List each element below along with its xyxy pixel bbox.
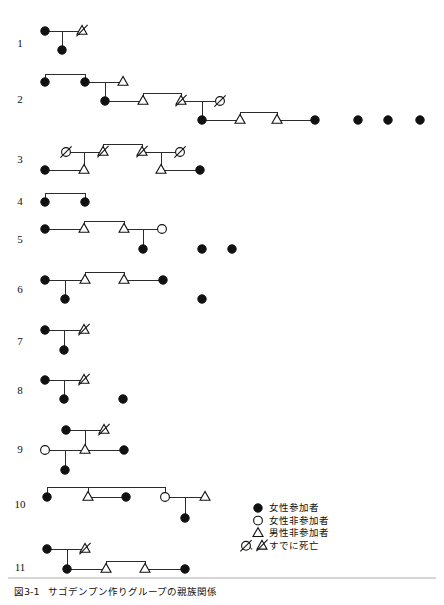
open-triangle-icon	[200, 491, 210, 500]
kin-node-female-participant	[41, 78, 49, 86]
kin-node-male-nonparticipant	[138, 95, 148, 104]
row-number-label: 5	[17, 233, 23, 245]
legend-item: 女性参加者	[254, 502, 319, 513]
kin-node-female-participant	[41, 276, 49, 284]
kin-node-female-participant	[311, 116, 319, 124]
filled-circle-icon	[181, 565, 189, 573]
kin-node-female-participant	[41, 166, 49, 174]
open-triangle-icon	[119, 223, 129, 232]
kin-node-female-participant	[81, 78, 89, 86]
legend: 女性参加者女性非参加者男性非参加者、すでに死亡	[240, 502, 329, 551]
row-nodes	[41, 374, 127, 403]
kin-node-female-participant	[41, 376, 49, 384]
open-triangle-icon	[138, 95, 148, 104]
open-triangle-icon	[80, 444, 90, 453]
filled-circle-icon	[60, 395, 68, 403]
kin-node-female-participant	[122, 493, 130, 501]
kin-node-female-participant	[120, 446, 128, 454]
kin-node-female-participant	[58, 46, 66, 54]
filled-circle-icon	[198, 116, 206, 124]
row-nodes	[41, 274, 206, 303]
filled-circle-icon	[122, 493, 130, 501]
kin-node-male-nonparticipant	[80, 444, 90, 453]
kin-node-female-participant	[196, 166, 204, 174]
row-number-label: 6	[17, 283, 23, 295]
filled-circle-icon	[311, 116, 319, 124]
kin-node-male-nonparticipant	[272, 114, 282, 123]
filled-circle-icon	[198, 295, 206, 303]
filled-circle-icon	[181, 514, 189, 522]
legend-item: 男性非参加者	[253, 527, 329, 538]
row-links	[47, 487, 205, 518]
filled-circle-icon	[41, 166, 49, 174]
filled-circle-icon	[62, 426, 70, 434]
filled-circle-icon	[41, 27, 49, 35]
open-circle-icon	[41, 446, 50, 455]
legend-item-label: 女性参加者	[269, 502, 319, 513]
kin-node-female-participant	[198, 295, 206, 303]
caption-number: 図3-1	[14, 586, 40, 597]
kin-node-female-participant	[61, 466, 69, 474]
row-number-label: 4	[17, 195, 23, 207]
caption-title: サゴデンプン作りグループの親族関係	[48, 586, 217, 597]
row-number-layer: 1234567891011	[15, 37, 27, 573]
filled-circle-icon	[81, 78, 89, 86]
filled-circle-icon	[354, 116, 362, 124]
filled-circle-icon	[120, 446, 128, 454]
row-number-label: 2	[17, 93, 23, 105]
legend-item-label: 男性非参加者	[269, 527, 329, 538]
kin-node-female-participant	[41, 326, 49, 334]
open-circle-icon	[254, 516, 263, 525]
row-nodes	[41, 198, 89, 206]
kin-node-female-participant	[60, 395, 68, 403]
kin-node-male-nonparticipant	[79, 164, 89, 173]
filled-circle-icon	[41, 225, 49, 233]
open-triangle-icon	[119, 274, 129, 283]
kin-node-male-nonparticipant	[140, 563, 150, 572]
kin-node-female-participant	[416, 116, 424, 124]
filled-circle-icon	[43, 545, 51, 553]
kin-node-female-nonparticipant	[161, 493, 170, 502]
filled-circle-icon	[41, 198, 49, 206]
kin-node-female-participant	[62, 426, 70, 434]
filled-circle-icon	[43, 493, 51, 501]
filled-circle-icon	[60, 346, 68, 354]
row-nodes	[41, 324, 90, 354]
kin-node-female-participant	[63, 565, 71, 573]
filled-circle-icon	[139, 245, 147, 253]
kin-node-female-participant	[139, 245, 147, 253]
filled-circle-icon	[384, 116, 392, 124]
row-number-label: 11	[15, 561, 26, 573]
kin-node-male-nonparticipant	[156, 164, 166, 173]
kin-node-female-participant	[101, 97, 109, 105]
open-circle-icon	[161, 493, 170, 502]
row-nodes	[41, 76, 424, 124]
kin-node-female-participant	[61, 295, 69, 303]
kin-node-female-participant	[354, 116, 362, 124]
kin-node-male-nonparticipant	[119, 223, 129, 232]
open-triangle-icon	[83, 491, 93, 500]
filled-circle-icon	[41, 78, 49, 86]
filled-circle-icon	[61, 295, 69, 303]
kin-node-male-nonparticipant	[80, 274, 90, 283]
kin-node-male-nonparticipant	[83, 491, 93, 500]
figure-root: 1234567891011 女性参加者女性非参加者男性非参加者、すでに死亡 図3…	[0, 0, 444, 605]
filled-circle-icon	[159, 276, 167, 284]
open-triangle-icon	[79, 223, 89, 232]
kin-node-female-participant	[159, 276, 167, 284]
kin-node-female-nonparticipant-deceased	[174, 146, 185, 157]
filled-circle-icon	[196, 166, 204, 174]
kinship-nodes-layer	[41, 25, 425, 573]
kin-node-male-nonparticipant	[118, 76, 128, 85]
open-circle-icon	[158, 225, 167, 234]
kin-node-male-nonparticipant	[119, 274, 129, 283]
row-nodes	[41, 424, 129, 474]
kin-node-female-nonparticipant-deceased	[60, 146, 71, 157]
kin-node-female-participant	[60, 346, 68, 354]
open-triangle-icon	[80, 274, 90, 283]
filled-circle-icon	[63, 565, 71, 573]
row-nodes	[41, 223, 236, 253]
open-triangle-icon	[235, 114, 245, 123]
filled-circle-icon	[81, 198, 89, 206]
filled-circle-icon	[254, 504, 262, 512]
